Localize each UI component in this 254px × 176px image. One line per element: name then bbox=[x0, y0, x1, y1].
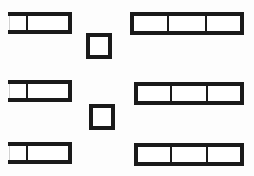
shape-diagram bbox=[0, 0, 254, 176]
shape-group-right-column bbox=[132, 14, 242, 164]
square-2-outline bbox=[91, 106, 113, 128]
diagram-canvas bbox=[0, 0, 254, 176]
square-2 bbox=[91, 106, 113, 128]
square-1-outline bbox=[88, 35, 110, 57]
right-shape-2 bbox=[136, 84, 242, 103]
shape-group-middle-column bbox=[88, 35, 113, 128]
right-shape-2-outline bbox=[136, 84, 242, 103]
left-shape-3-outline bbox=[10, 144, 70, 162]
left-shape-1 bbox=[10, 14, 70, 32]
square-1 bbox=[88, 35, 110, 57]
left-shape-3 bbox=[10, 144, 70, 162]
right-shape-1 bbox=[132, 14, 242, 33]
right-shape-3-outline bbox=[136, 145, 242, 164]
shape-layer bbox=[10, 14, 242, 164]
left-shape-1-outline bbox=[10, 14, 70, 32]
right-shape-1-outline bbox=[132, 14, 242, 33]
left-shape-2-outline bbox=[10, 82, 70, 100]
left-shape-2 bbox=[10, 82, 70, 100]
shape-group-left-column bbox=[10, 14, 70, 162]
right-shape-3 bbox=[136, 145, 242, 164]
